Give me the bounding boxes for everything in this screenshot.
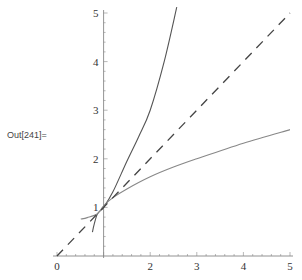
y-tick-label: 2 <box>93 153 99 165</box>
x-tick-label: 3 <box>194 260 200 272</box>
plot-area: 0234512345 <box>0 0 302 280</box>
x-tick-label: 4 <box>241 260 247 272</box>
identity-line <box>57 13 290 256</box>
curves <box>57 7 290 256</box>
x-tick-label: 2 <box>147 260 153 272</box>
y-tick-label: 5 <box>93 7 99 19</box>
x-tick-label: 0 <box>54 260 60 272</box>
y-tick-label: 1 <box>93 201 99 213</box>
x-tick-label: 5 <box>287 260 293 272</box>
flat-curve <box>81 130 290 219</box>
y-tick-label: 4 <box>93 56 99 68</box>
y-tick-label: 3 <box>93 104 99 116</box>
